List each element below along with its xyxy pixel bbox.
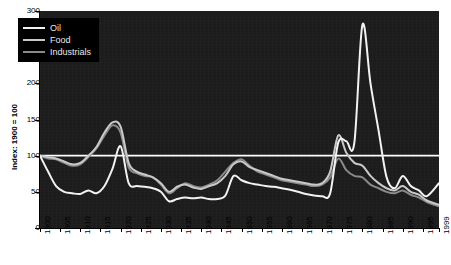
x-tick-mark (40, 228, 41, 232)
x-tick-mark (282, 228, 283, 232)
plot-area (40, 11, 439, 228)
x-tick-mark (221, 228, 222, 232)
legend-item-food[interactable]: Food (23, 34, 91, 46)
x-tick-mark (403, 228, 404, 232)
x-tick-label: 1990 (407, 216, 415, 234)
y-tick-label: 300 (14, 7, 40, 15)
y-tick-label: 200 (14, 79, 40, 87)
x-tick-label: 1940 (205, 216, 213, 234)
x-tick-label: 1980 (366, 216, 374, 234)
y-axis-title: Index: 1900 = 100 (10, 104, 19, 170)
x-tick-label: 1985 (387, 216, 395, 234)
x-tick-label: 1900 (44, 216, 52, 234)
x-tick-mark (80, 228, 81, 232)
x-tick-mark (322, 228, 323, 232)
x-axis-ticks: 1900190519101915192019251930193519401945… (0, 228, 447, 265)
x-tick-mark (383, 228, 384, 232)
legend-swatch-icon (23, 51, 45, 53)
legend-item-label: Oil (50, 24, 61, 33)
x-tick-label: 1955 (266, 216, 274, 234)
x-tick-label: 1995 (427, 216, 435, 234)
x-tick-label: 1930 (165, 216, 173, 234)
x-tick-mark (121, 228, 122, 232)
x-tick-mark (439, 228, 440, 232)
x-tick-mark (362, 228, 363, 232)
x-tick-mark (262, 228, 263, 232)
x-tick-mark (60, 228, 61, 232)
x-tick-label: 1905 (64, 216, 72, 234)
chart-canvas (40, 11, 439, 228)
x-tick-label: 1970 (326, 216, 334, 234)
legend-swatch-icon (23, 39, 45, 41)
x-tick-label: 1960 (286, 216, 294, 234)
x-tick-label: 1910 (84, 216, 92, 234)
x-tick-mark (181, 228, 182, 232)
series-line-oil (40, 23, 439, 201)
x-tick-label: 1925 (145, 216, 153, 234)
legend-item-label: Industrials (50, 48, 91, 57)
chart-legend: OilFoodIndustrials (18, 18, 99, 62)
x-tick-label: 1945 (225, 216, 233, 234)
x-tick-label: 1935 (185, 216, 193, 234)
x-tick-label: 1920 (125, 216, 133, 234)
x-tick-mark (100, 228, 101, 232)
y-tick-label: 50 (14, 188, 40, 196)
x-tick-mark (161, 228, 162, 232)
x-tick-label: 1950 (246, 216, 254, 234)
x-tick-mark (423, 228, 424, 232)
x-tick-mark (201, 228, 202, 232)
x-tick-label: 1999 (443, 216, 451, 234)
x-tick-mark (141, 228, 142, 232)
x-tick-mark (242, 228, 243, 232)
x-tick-label: 1915 (104, 216, 112, 234)
x-tick-label: 1965 (306, 216, 314, 234)
legend-item-label: Food (50, 36, 71, 45)
x-tick-mark (342, 228, 343, 232)
legend-swatch-icon (23, 27, 45, 29)
legend-item-industrials[interactable]: Industrials (23, 46, 91, 58)
legend-item-oil[interactable]: Oil (23, 22, 91, 34)
x-tick-label: 1975 (346, 216, 354, 234)
x-tick-mark (302, 228, 303, 232)
